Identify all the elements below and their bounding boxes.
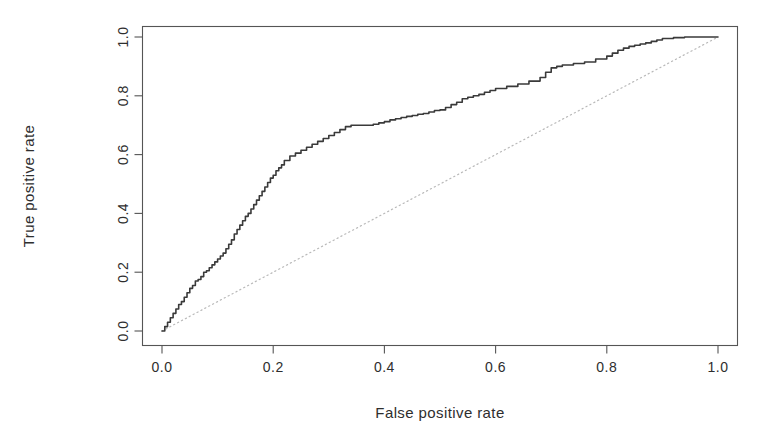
x-tick-label: 0.8 — [596, 359, 617, 375]
y-tick-label: 0.0 — [115, 321, 131, 342]
x-axis-title: False positive rate — [375, 404, 504, 421]
roc-chart-svg: 0.00.20.40.60.81.0 0.00.20.40.60.81.0 Fa… — [0, 0, 766, 433]
y-tick-label: 1.0 — [115, 27, 131, 48]
roc-plot-figure: 0.00.20.40.60.81.0 0.00.20.40.60.81.0 Fa… — [0, 0, 766, 433]
y-tick-label: 0.8 — [115, 85, 131, 106]
y-tick-label: 0.6 — [115, 144, 131, 165]
y-axis-title: True positive rate — [20, 125, 37, 248]
x-tick-label: 0.2 — [263, 359, 284, 375]
x-tick-label: 0.6 — [485, 359, 506, 375]
x-tick-label: 0.0 — [152, 359, 173, 375]
x-tick-label: 1.0 — [708, 359, 729, 375]
y-tick-label: 0.4 — [115, 203, 131, 224]
y-tick-label: 0.2 — [115, 262, 131, 283]
x-tick-label: 0.4 — [374, 359, 395, 375]
